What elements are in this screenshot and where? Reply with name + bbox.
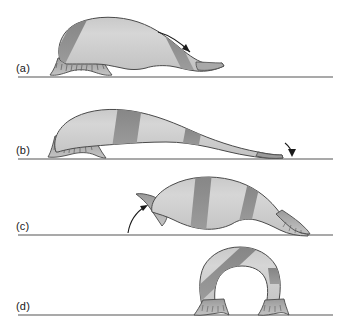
locomotion-sequence-figure [0, 0, 344, 329]
organism-d [194, 244, 289, 315]
panel-b [18, 106, 333, 159]
organism-a [50, 17, 224, 75]
motion-arrow-b [285, 143, 296, 157]
body-c [152, 177, 308, 236]
right-sucker-d [258, 299, 289, 315]
panel-d [18, 244, 333, 315]
left-sucker-d [194, 299, 229, 315]
anterior-sucker-a [196, 62, 224, 70]
motion-arrow-c [128, 205, 148, 233]
band-d-2 [268, 268, 284, 284]
panel-label-d: (d) [16, 300, 30, 312]
figure-root: (a) (b) (c) (d) [0, 0, 344, 329]
panel-label-c: (c) [16, 220, 29, 232]
panel-label-b: (b) [16, 144, 30, 156]
panel-label-a: (a) [16, 62, 30, 74]
panel-a [18, 17, 333, 77]
organism-b [48, 106, 283, 158]
organism-c [136, 172, 310, 236]
panel-c [18, 172, 333, 236]
